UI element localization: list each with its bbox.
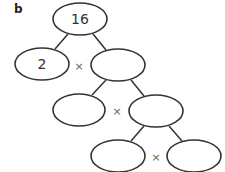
edge-l2-right-l3-right bbox=[169, 126, 182, 141]
tree-node-l3-right bbox=[167, 140, 221, 172]
multiply-sign-level-2: × bbox=[112, 105, 121, 118]
multiply-sign-level-3: × bbox=[151, 151, 160, 164]
tree-node-l2-right bbox=[129, 95, 183, 127]
tree-node-l2-left bbox=[53, 94, 105, 126]
part-label: b bbox=[14, 2, 23, 16]
tree-node-l3-left bbox=[91, 140, 145, 172]
edge-l1-right-l2-right bbox=[131, 80, 144, 96]
factor-tree-diagram: b 16 2 × × × bbox=[0, 0, 225, 172]
edge-root-l1-left bbox=[55, 34, 68, 49]
multiply-sign-level-1: × bbox=[74, 60, 83, 73]
edge-l1-right-l2-left bbox=[92, 80, 106, 95]
edge-root-l1-right bbox=[93, 34, 106, 50]
edge-l2-right-l3-left bbox=[131, 126, 144, 141]
node-value: 16 bbox=[71, 11, 89, 27]
tree-node-root: 16 bbox=[53, 3, 107, 35]
node-value: 2 bbox=[38, 56, 47, 72]
tree-node-l1-right bbox=[91, 49, 145, 81]
tree-node-l1-left: 2 bbox=[15, 48, 69, 80]
